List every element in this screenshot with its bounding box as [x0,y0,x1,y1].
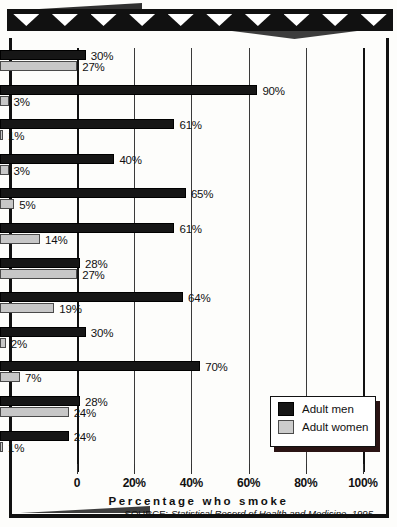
bar-value-label: 24% [74,408,96,418]
bar-value-label: 30% [91,328,113,338]
source-text: Statistical Record of Health and Medicin… [168,508,373,519]
chart-row: Singapore30%2% [0,327,286,362]
bar-value-label: 64% [188,293,210,303]
banner-triangle-icon [129,14,155,26]
decorative-banner [0,0,397,40]
bar-adult-women [0,338,6,348]
bar-value-label: 28% [85,259,107,269]
bar-value-label: 1% [8,131,24,141]
bar-adult-men [0,50,86,60]
bar-value-label: 5% [19,200,35,210]
banner-triangle-icon [284,14,310,26]
banner-bar [7,9,393,31]
banner-triangle-icon [206,14,232,26]
chart-row: United States28%24% [0,396,286,431]
banner-triangle-icon [91,14,117,26]
bar-adult-women [0,269,77,279]
chart-row: China61%1% [0,119,286,154]
chart-row: India40%3% [0,154,286,189]
x-axis-tick [306,464,307,474]
bar-adult-men [0,327,86,337]
banner-triangle-icon [245,14,271,26]
bar-value-label: 30% [91,51,113,61]
bar-adult-women [0,199,14,209]
x-axis-tick-label: 80% [294,476,317,490]
bar-adult-men [0,85,257,95]
chart-row: Philippines64%19% [0,292,286,327]
bar-value-label: 65% [191,189,213,199]
bar-adult-men [0,258,80,268]
bar-adult-men [0,223,174,233]
bar-value-label: 27% [82,270,104,280]
bar-adult-women [0,96,9,106]
chart-row: South Korea70%7% [0,361,286,396]
bar-value-label: 3% [14,166,30,176]
bar-value-label: 28% [85,397,107,407]
banner-triangle-icon [13,14,39,26]
chart-row: New Zealand28%27% [0,258,286,293]
chart-row: Japan61%14% [0,223,286,258]
banner-triangle-icon [52,14,78,26]
x-axis-tick [77,464,78,474]
bar-adult-women [0,442,3,452]
bar-adult-men [0,361,200,371]
bar-adult-men [0,188,186,198]
x-axis-tick-label: 60% [237,476,260,490]
bar-value-label: 24% [74,432,96,442]
source-label: SOURCE: [125,508,169,519]
banner-triangle-icon [322,14,348,26]
bar-value-label: 19% [59,304,81,314]
bar-value-label: 1% [8,443,24,453]
bar-adult-women [0,61,77,71]
x-axis-tick-label: 40% [180,476,203,490]
legend-swatch-women-icon [278,420,294,434]
banner-triangle-icon [361,14,387,26]
x-axis-tick-label: 0 [74,476,80,490]
x-axis-tick-label: 100% [348,476,378,490]
chart-page: Australia30%27%Cambodia90%3%China61%1%In… [0,0,397,527]
bar-value-label: 70% [205,362,227,372]
bar-value-label: 2% [11,339,27,349]
source-note: SOURCE: Statistical Record of Health and… [125,508,374,519]
bar-adult-women [0,407,69,417]
bar-adult-women [0,234,40,244]
legend-label-men: Adult men [302,403,354,415]
legend-item-women[interactable]: Adult women [278,420,375,434]
bar-value-label: 7% [25,373,41,383]
x-axis-title: Percentage who smoke [0,495,397,507]
x-axis-tick-label: 20% [123,476,146,490]
bar-adult-women [0,372,20,382]
bar-value-label: 27% [82,62,104,72]
x-axis-tick [249,464,250,474]
x-axis-tick [363,464,364,474]
legend-item-men[interactable]: Adult men [278,402,375,416]
bar-adult-women [0,130,3,140]
x-axis-tick [191,464,192,474]
bar-value-label: 14% [45,235,67,245]
bar-value-label: 61% [179,120,201,130]
bar-adult-men [0,396,80,406]
banner-triangle-icon [168,14,194,26]
x-axis-tick [134,464,135,474]
chart-row: Indonesia65%5% [0,188,286,223]
chart-row: Vietnam24%1% [0,431,286,466]
bar-adult-men [0,292,183,302]
bar-adult-men [0,119,174,129]
legend-label-women: Adult women [302,421,368,433]
chart-legend: Adult men Adult women [270,396,376,447]
chart-row: Australia30%27% [0,50,286,85]
legend-swatch-men-icon [278,402,294,416]
bar-value-label: 40% [119,155,141,165]
bar-adult-women [0,303,54,313]
bar-value-label: 61% [179,224,201,234]
bar-value-label: 3% [14,97,30,107]
bar-adult-women [0,165,9,175]
bar-adult-men [0,431,69,441]
chart-row: Cambodia90%3% [0,85,286,120]
bar-adult-men [0,154,114,164]
bar-value-label: 90% [262,86,284,96]
